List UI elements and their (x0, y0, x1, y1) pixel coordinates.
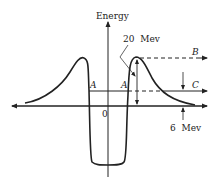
level-c-energy-label: 6 Mev (170, 123, 202, 133)
barrier-height-label: 20 Mev (123, 34, 161, 44)
y-axis-label: Energy (96, 11, 130, 21)
origin-label: 0 (102, 109, 108, 119)
barrier-label-leader (120, 45, 128, 57)
label-c: C (192, 80, 199, 90)
label-a-left: A (89, 80, 97, 90)
potential-well-diagram: Energy 0 A A B C 20 Mev 6 Mev (0, 0, 219, 185)
potential-curve (25, 57, 195, 165)
label-a-right: A (120, 80, 128, 90)
label-b: B (191, 47, 199, 57)
